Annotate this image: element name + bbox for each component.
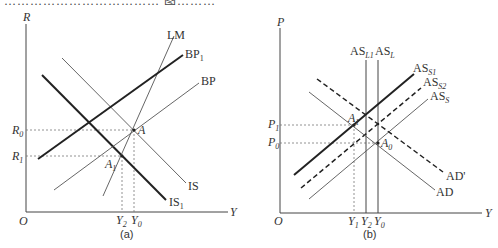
tick-y1: Y1 <box>348 214 359 230</box>
label-point-a1-b: A1 <box>347 111 359 127</box>
tick-p0: P0 <box>267 135 279 151</box>
curve-is <box>62 58 186 183</box>
curve-ad <box>309 92 435 190</box>
label-point-a: A <box>137 123 146 137</box>
caption-a: (a) <box>120 228 133 240</box>
axis-label-r: R <box>22 10 31 24</box>
point-a0 <box>376 141 379 144</box>
label-is1: IS1 <box>169 195 184 211</box>
economics-diagram: R Y O LM BP1 BP IS IS1 A A1 R0 R1 Y2 Y0 <box>0 0 498 248</box>
point-intersect <box>377 123 379 125</box>
tick-y0: Y0 <box>131 213 142 229</box>
curve-as-s <box>309 99 428 199</box>
label-lm: LM <box>167 28 185 42</box>
label-ad: AD <box>436 185 454 199</box>
panel-a: R Y O LM BP1 BP IS IS1 A A1 R0 R1 Y2 Y0 <box>11 10 238 240</box>
caption-b: (b) <box>363 228 376 240</box>
curve-as-s2 <box>301 88 421 188</box>
point-a <box>132 128 135 131</box>
origin-label: O <box>19 214 28 228</box>
curve-ad-prime <box>317 79 443 172</box>
label-point-a1: A1 <box>104 157 116 173</box>
guide-lines-b <box>280 125 378 213</box>
label-as-l: ASL <box>375 44 395 60</box>
label-bp: BP <box>201 74 216 88</box>
label-ad-prime: AD' <box>446 169 466 183</box>
axis-label-y: Y <box>230 205 238 219</box>
curve-is1 <box>42 75 166 200</box>
origin-label-b: O <box>274 214 283 228</box>
axis-label-p: P <box>276 15 285 29</box>
tick-y2: Y2 <box>116 213 127 229</box>
point-a1 <box>121 155 124 158</box>
label-is: IS <box>188 179 199 193</box>
tick-r1: R1 <box>11 149 23 165</box>
axis-label-y-b: Y <box>485 206 493 220</box>
label-as-l1: ASL1 <box>350 44 374 60</box>
panel-b: P Y O ASL1 ASL ASS1 ASS2 ASS AD' AD A <box>267 15 493 240</box>
tick-r0: R0 <box>11 123 23 139</box>
tick-p1: P1 <box>267 117 279 133</box>
label-as-s: ASS <box>430 89 449 105</box>
label-point-a0: A0 <box>380 136 392 152</box>
label-bp1: BP1 <box>185 47 204 63</box>
